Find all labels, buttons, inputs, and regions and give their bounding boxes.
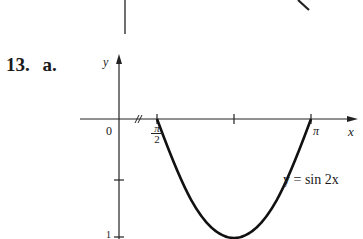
y-axis-label: y [103, 55, 108, 70]
pi-label: π [313, 124, 319, 139]
previous-figure-curve [298, 0, 309, 10]
x-axis-label: x [348, 124, 354, 140]
y-axis-arrow-icon [116, 54, 122, 64]
neg-one-label: 1 [106, 229, 111, 239]
origin-label: 0 [106, 124, 112, 139]
pi-half-label: π 2 [151, 123, 163, 144]
x-axis-arrow-icon [347, 116, 358, 122]
sine-graph [0, 0, 363, 239]
equation-label: y = sin 2x [283, 172, 339, 188]
